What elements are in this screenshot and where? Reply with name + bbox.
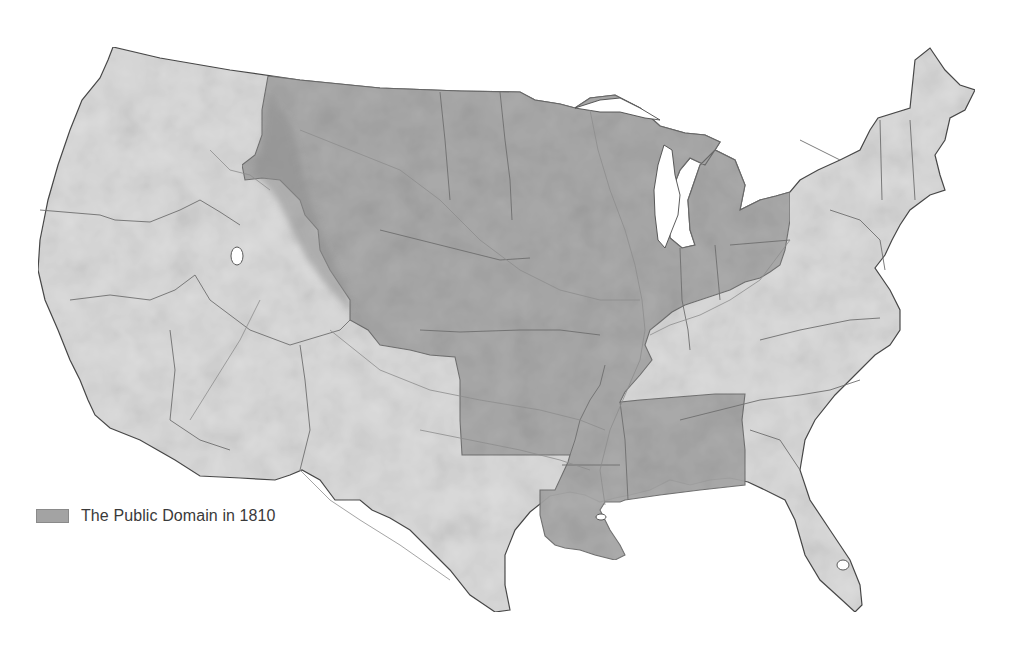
legend-label-public-domain: The Public Domain in 1810 xyxy=(81,507,276,525)
lake-okeechobee xyxy=(837,560,849,570)
legend: The Public Domain in 1810 xyxy=(36,507,276,525)
legend-swatch-public-domain xyxy=(36,509,69,523)
great-salt-lake xyxy=(231,247,243,265)
us-map xyxy=(0,0,1014,671)
map-figure: The Public Domain in 1810 xyxy=(0,0,1014,671)
lake-pontchartrain xyxy=(596,514,606,520)
